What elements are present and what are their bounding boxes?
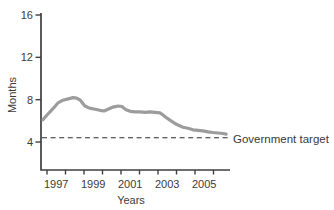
y-tick-label: 4 (27, 136, 33, 148)
y-tick-label: 16 (21, 9, 33, 21)
waiting-times-line-chart-figure: 48121619971999200120032005 Months Years … (0, 0, 334, 210)
axes (41, 13, 230, 170)
x-axis-label: Years (117, 194, 145, 206)
government-target-label: Government target (233, 133, 329, 145)
waiting-time-series-line (43, 98, 226, 135)
y-tick-label: 12 (21, 51, 33, 63)
x-tick-label: 2001 (118, 178, 142, 190)
y-axis-label: Months (6, 77, 18, 113)
x-tick-label: 2003 (155, 178, 179, 190)
x-tick-label: 1997 (44, 178, 68, 190)
x-tick-label: 2005 (192, 178, 216, 190)
y-tick-label: 8 (27, 94, 33, 106)
line-chart-canvas: 48121619971999200120032005 (0, 0, 334, 210)
x-tick-label: 1999 (81, 178, 105, 190)
